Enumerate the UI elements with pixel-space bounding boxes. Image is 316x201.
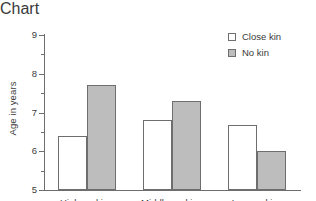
y-axis-title-text: Age in years [7, 81, 18, 135]
bar-low-ranking-no-kin [257, 151, 286, 190]
legend-swatch-close-kin-icon [228, 33, 236, 41]
legend-item-close-kin: Close kin [228, 30, 281, 43]
bar-middle-ranking-close-kin [143, 120, 172, 190]
bar-low-ranking-close-kin [228, 125, 257, 190]
legend-label-no-kin: No kin [242, 48, 269, 58]
y-minor-tick-mark [41, 54, 44, 55]
bar-high-ranking-no-kin [87, 85, 116, 190]
y-tick-label: 6 [32, 147, 37, 157]
legend-label-close-kin: Close kin [242, 32, 281, 42]
y-tick-mark [39, 113, 44, 114]
y-tick-label: 9 [32, 30, 37, 40]
bar-high-ranking-close-kin [58, 136, 87, 190]
legend-item-no-kin: No kin [228, 46, 281, 59]
bar-chart: Age in years 56789 High rankingMiddle ra… [0, 18, 316, 201]
y-minor-tick-mark [41, 93, 44, 94]
y-tick-label: 7 [32, 108, 37, 118]
legend-swatch-no-kin-icon [228, 49, 236, 57]
y-tick-mark [39, 35, 44, 36]
x-axis-label-high-ranking: High ranking [60, 197, 113, 201]
x-axis-label-middle-ranking: Middle ranking [141, 197, 203, 201]
y-minor-tick-mark [41, 132, 44, 133]
y-tick-mark [39, 151, 44, 152]
y-minor-tick-mark [41, 171, 44, 172]
y-tick-label: 5 [32, 185, 37, 195]
y-tick-mark [39, 190, 44, 191]
y-tick-mark [39, 74, 44, 75]
x-axis-line [44, 190, 301, 191]
y-tick-label: 8 [32, 69, 37, 79]
x-axis-label-low-ranking: Low ranking [232, 197, 283, 201]
legend: Close kin No kin [228, 30, 281, 62]
bar-middle-ranking-no-kin [172, 101, 201, 190]
y-axis-title: Age in years [2, 18, 22, 198]
